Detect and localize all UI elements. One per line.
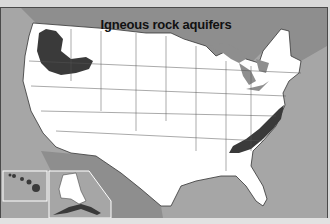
map-frame: Igneous rock aquifers — [0, 7, 328, 219]
bottom-strip — [0, 218, 330, 224]
us-map — [1, 8, 327, 218]
map-title: Igneous rock aquifers — [1, 17, 328, 32]
